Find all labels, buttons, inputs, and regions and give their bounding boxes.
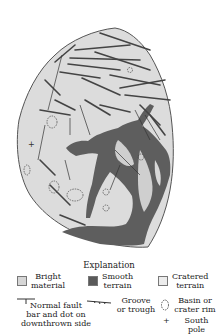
legend-cratered-terrain: Cratered terrain xyxy=(158,272,208,290)
smooth-terrain-label-1: Smooth xyxy=(102,272,133,281)
bright-material-label-2: material xyxy=(31,281,65,290)
south-pole-marker: + xyxy=(28,140,35,149)
basin-label: Basin or crater rim xyxy=(172,296,218,314)
cratered-terrain-label-2: terrain xyxy=(172,281,208,290)
legend-basin xyxy=(160,298,170,312)
cratered-terrain-swatch xyxy=(158,276,168,286)
south-pole-icon: + xyxy=(163,316,170,325)
cratered-terrain-label-1: Cratered xyxy=(172,272,208,281)
geologic-map: + xyxy=(0,0,218,258)
groove-icon xyxy=(86,298,112,306)
normal-fault-label: Normal fault bar and dot on downthrown s… xyxy=(20,301,92,328)
smooth-terrain-label-2: terrain xyxy=(102,281,133,290)
bright-material-swatch xyxy=(17,276,27,286)
groove-label: Groove or trough xyxy=(114,296,158,314)
legend-bright-material: Bright material xyxy=(17,272,65,290)
legend-groove xyxy=(86,298,112,306)
smooth-terrain-swatch xyxy=(88,276,98,286)
legend-title: Explanation xyxy=(0,260,218,270)
south-pole-label: South pole xyxy=(175,316,218,334)
basin-rim-icon xyxy=(160,298,170,312)
legend-smooth-terrain: Smooth terrain xyxy=(88,272,133,290)
bright-material-label-1: Bright xyxy=(31,272,65,281)
